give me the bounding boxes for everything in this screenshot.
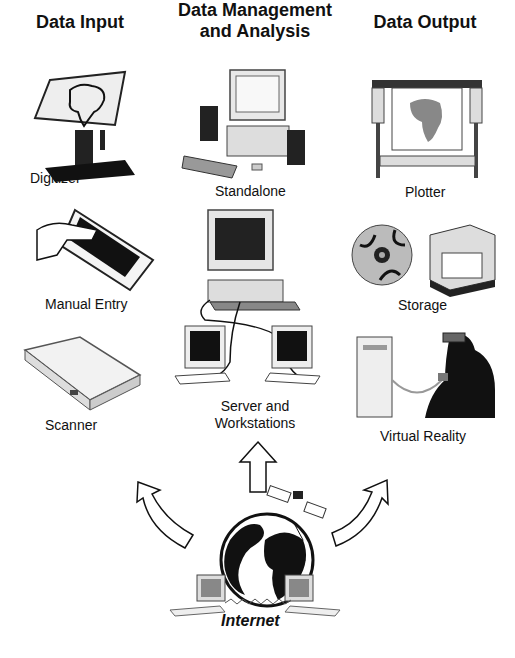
virtual-reality-label: Virtual Reality <box>380 428 466 445</box>
storage-label: Storage <box>398 297 447 314</box>
storage-icon <box>350 225 500 295</box>
data-management-title-line1: Data Management <box>155 0 355 21</box>
manual-entry-label: Manual Entry <box>45 296 127 313</box>
server-workstations-label: Server and Workstations <box>195 398 315 432</box>
standalone-label: Standalone <box>215 183 286 200</box>
internet-globe-icon <box>165 485 370 620</box>
digitizer-icon <box>30 60 140 180</box>
scanner-icon <box>20 335 145 415</box>
server-label-line2: Workstations <box>195 415 315 432</box>
manual-entry-icon <box>35 205 155 290</box>
server-label-line1: Server and <box>195 398 315 415</box>
data-management-title-line2: and Analysis <box>155 21 355 42</box>
standalone-computer-icon <box>182 68 322 178</box>
plotter-icon <box>370 78 490 183</box>
scanner-label: Scanner <box>45 417 97 434</box>
virtual-reality-icon <box>355 325 500 420</box>
data-input-title: Data Input <box>15 12 145 33</box>
satellite-icon <box>267 486 326 519</box>
data-management-title: Data Management and Analysis <box>155 0 355 42</box>
data-output-title: Data Output <box>355 12 495 33</box>
digitizer-label: Digitizer <box>30 170 81 187</box>
server-workstations-icon <box>170 208 330 393</box>
plotter-label: Plotter <box>405 184 445 201</box>
internet-label: Internet <box>221 612 280 630</box>
